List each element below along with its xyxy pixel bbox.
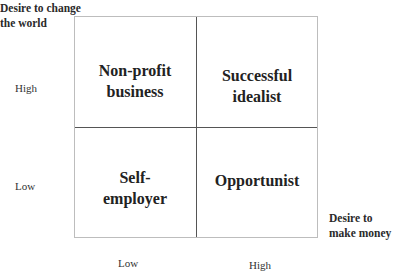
quadrant-top-right: Successful idealist [197,65,317,107]
quadrant-top-left-line1: Non-profit [75,60,195,81]
quadrant-bottom-left-line2: employer [75,188,195,209]
y-axis-title-line2: the world [0,16,81,31]
quadrant-top-left-line2: business [75,81,195,102]
y-axis-title: Desire to change the world [0,1,81,31]
x-tick-high: High [249,259,271,271]
x-axis-title-line1: Desire to [329,211,391,226]
horizontal-divider [75,127,317,128]
y-tick-high: High [15,82,37,94]
x-tick-low: Low [118,257,138,269]
quadrant-top-right-line1: Successful [197,65,317,86]
quadrant-top-right-line2: idealist [197,86,317,107]
quadrant-bottom-left-line1: Self- [75,167,195,188]
quadrant-bottom-right-line1: Opportunist [197,170,317,191]
quadrant-bottom-left: Self- employer [75,167,195,209]
x-axis-title-line2: make money [329,226,391,241]
y-tick-low: Low [15,180,35,192]
x-axis-title: Desire to make money [329,211,391,241]
quadrant-bottom-right: Opportunist [197,170,317,191]
quadrant-grid: Non-profit business Successful idealist … [74,16,318,238]
y-axis-title-line1: Desire to change [0,1,81,16]
quadrant-top-left: Non-profit business [75,60,195,102]
